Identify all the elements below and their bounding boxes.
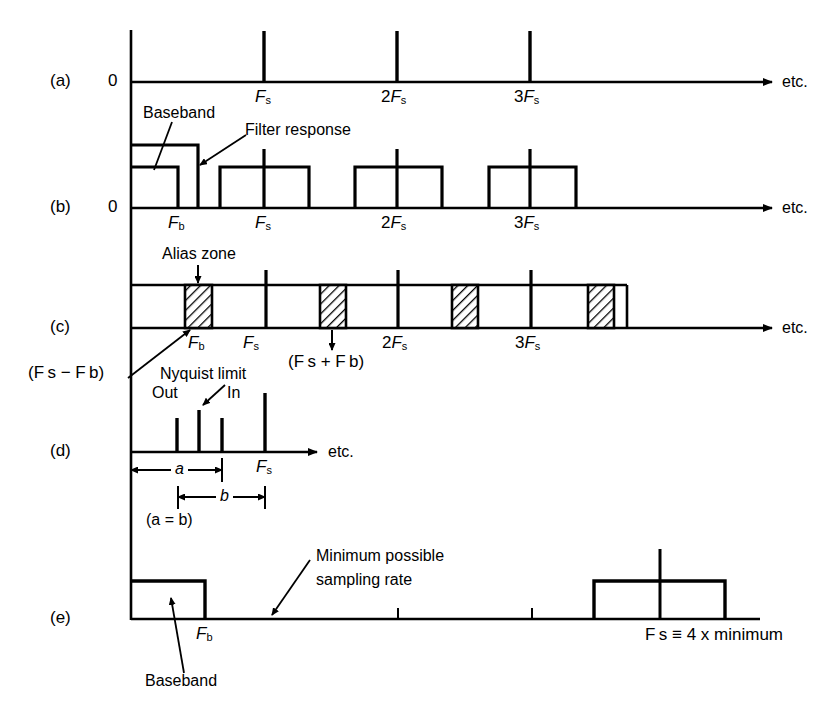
annotation-nyquist-limit: Nyquist limit: [160, 366, 246, 382]
panel-label-c: (c): [50, 318, 70, 335]
expression-fs-plus-fb: (F s + F b): [288, 353, 364, 370]
panel-d-nyquist-leader: [203, 385, 225, 405]
tick-label-a-3fs: 3Fs: [514, 88, 539, 106]
panel-b-filter-leader: [200, 135, 246, 165]
panel-e-graphics: [131, 549, 760, 673]
annotation-min-rate-line1: Minimum possible: [316, 548, 444, 564]
annotation-out: Out: [152, 385, 178, 401]
annotation-fs-equiv: F s ≡ 4 x minimum: [645, 626, 783, 643]
panel-b-graphics: [131, 122, 772, 208]
tick-label-b-2fs: 2Fs: [381, 214, 406, 232]
annotation-min-rate-line2: sampling rate: [316, 572, 412, 588]
etc-label-d: etc.: [328, 444, 354, 460]
figure-vector-layer: [0, 0, 840, 707]
tick-label-b-fs: Fs: [255, 214, 271, 232]
panel-e-baseband-leader: [171, 598, 184, 673]
etc-label-c: etc.: [782, 320, 808, 336]
tick-label-e-fb: Fb: [196, 625, 213, 643]
dimension-label-b: b: [216, 488, 233, 504]
panel-c-alias-zone-1: [185, 285, 212, 328]
tick-label-b-fb: Fb: [168, 214, 185, 232]
tick-label-c-3fs: 3Fs: [515, 334, 540, 352]
panel-c-alias-zone-2: [320, 285, 346, 328]
tick-label-a-fs: Fs: [255, 88, 271, 106]
panel-b-block-3fs: [489, 167, 576, 208]
origin-label-a: 0: [108, 72, 117, 89]
panel-c-alias-zone-3: [452, 285, 478, 328]
dimension-label-a: a: [171, 461, 188, 477]
panel-label-a: (a): [50, 72, 71, 89]
tick-label-c-2fs: 2Fs: [382, 334, 407, 352]
origin-label-b: 0: [108, 198, 117, 215]
panel-label-e: (e): [50, 609, 71, 626]
annotation-baseband-b: Baseband: [143, 105, 215, 121]
annotation-baseband-e: Baseband: [145, 673, 217, 689]
panel-e-min-rate-leader: [272, 560, 310, 615]
annotation-a-equals-b: (a = b): [146, 512, 193, 528]
figure-root: (a) (b) (c) (d) (e) 0 0 etc. etc. etc. e…: [0, 0, 840, 707]
tick-label-d-fs: Fs: [256, 458, 272, 476]
panel-a-graphics: [131, 31, 772, 82]
tick-label-a-2fs: 2Fs: [381, 88, 406, 106]
panel-c-graphics: [128, 265, 772, 378]
annotation-in: In: [227, 385, 240, 401]
annotation-alias-zone: Alias zone: [162, 246, 236, 262]
annotation-filter-response: Filter response: [245, 122, 351, 138]
etc-label-a: etc.: [782, 74, 808, 90]
expression-fs-minus-fb: (F s − F b): [28, 364, 104, 381]
tick-label-b-3fs: 3Fs: [514, 214, 539, 232]
panel-e-baseband-block: [131, 581, 205, 619]
panel-label-b: (b): [50, 198, 71, 215]
panel-b-filter-response-shape: [131, 145, 198, 208]
tick-label-c-fs: Fs: [243, 334, 259, 352]
panel-b-baseband-shape: [131, 167, 178, 208]
panel-c-alias-zone-4: [588, 285, 614, 328]
etc-label-b: etc.: [782, 200, 808, 216]
tick-label-c-fb: Fb: [188, 334, 205, 352]
panel-label-d: (d): [50, 442, 71, 459]
